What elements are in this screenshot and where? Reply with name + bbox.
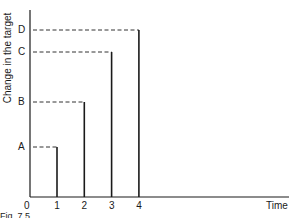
x-tick-label-2: 2 — [82, 201, 88, 211]
y-tick-label-d: D — [18, 25, 25, 35]
x-tick-label-3: 3 — [109, 201, 115, 211]
chart-canvas — [0, 0, 293, 218]
axes — [30, 10, 289, 197]
y-tick-label-c: C — [18, 47, 25, 57]
x-tick-label-4: 4 — [136, 201, 142, 211]
series-lines — [33, 30, 139, 197]
y-tick-label-a: A — [18, 142, 25, 152]
y-tick-label-b: B — [18, 97, 25, 107]
figure-caption: Fig. 7.5 — [0, 211, 30, 218]
x-axis-label: Time — [266, 201, 288, 211]
x-tick-label-0: 0 — [24, 201, 30, 211]
x-tick-label-1: 1 — [54, 201, 60, 211]
y-axis-label: Change in the target — [2, 0, 14, 118]
